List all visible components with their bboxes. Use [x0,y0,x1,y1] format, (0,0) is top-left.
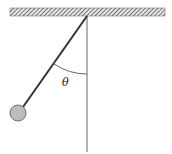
pendulum-bob [10,105,26,121]
theta-label: θ [62,76,69,89]
pendulum-string [23,16,87,107]
ceiling-support [10,8,165,16]
pendulum-diagram: θ [0,0,172,154]
angle-arc [54,64,88,75]
